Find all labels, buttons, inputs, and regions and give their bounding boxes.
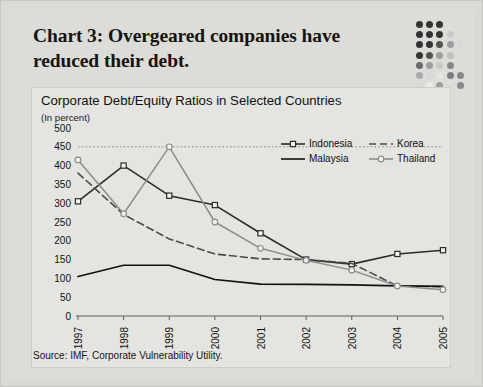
dot-glyph <box>436 41 443 48</box>
dot-glyph <box>436 31 443 38</box>
data-point-marker <box>212 219 218 225</box>
legend-key-icon <box>368 139 394 149</box>
figure-card: Chart 3: Overgeared companies have reduc… <box>9 9 474 379</box>
data-point-marker <box>258 231 263 236</box>
dot-glyph <box>426 41 433 48</box>
dot-glyph <box>436 72 443 79</box>
dot-glyph <box>416 62 423 69</box>
x-axis-tick-label: 2003 <box>347 327 358 350</box>
legend-item-indonesia[interactable]: Indonesia <box>280 138 358 149</box>
dot-glyph <box>426 72 433 79</box>
y-axis: 050100150200250300350400450500 <box>54 123 71 322</box>
x-axis-tick-label: 2002 <box>301 327 312 350</box>
data-point-marker <box>75 199 80 204</box>
dot-glyph <box>447 62 454 69</box>
chart-panel: Corporate Debt/Equity Ratios in Selected… <box>31 87 451 368</box>
x-axis-tick-label: 1997 <box>73 327 84 350</box>
legend-item-label: Korea <box>397 138 424 149</box>
legend-item-malaysia[interactable]: Malaysia <box>280 153 358 164</box>
legend-item-korea[interactable]: Korea <box>368 138 424 149</box>
data-point-marker <box>440 287 446 293</box>
plot-area: 050100150200250300350400450500 199719981… <box>32 88 452 369</box>
legend-item-label: Malaysia <box>309 153 348 164</box>
data-point-marker <box>258 246 264 252</box>
slide-page: Chart 3: Overgeared companies have reduc… <box>0 0 483 387</box>
data-point-marker <box>75 157 81 163</box>
series-line <box>78 173 443 287</box>
series-line <box>78 147 443 290</box>
dot-glyph <box>447 52 454 59</box>
dot-glyph <box>426 31 433 38</box>
legend-row: MalaysiaThailand <box>280 151 440 166</box>
y-axis-tick-label: 400 <box>54 160 71 171</box>
y-axis-tick-label: 350 <box>54 179 71 190</box>
y-axis-tick-label: 100 <box>54 273 71 284</box>
data-point-marker <box>166 144 172 150</box>
data-point-marker <box>212 202 217 207</box>
y-axis-tick-label: 450 <box>54 141 71 152</box>
line-chart-svg: 050100150200250300350400450500 199719981… <box>32 88 452 369</box>
x-axis-tick-label: 2005 <box>438 327 449 350</box>
data-point-marker <box>303 258 309 264</box>
y-axis-tick-label: 50 <box>60 292 72 303</box>
legend-item-thailand[interactable]: Thailand <box>368 153 435 164</box>
dot-glyph <box>416 52 423 59</box>
y-axis-tick-label: 150 <box>54 254 71 265</box>
data-point-marker <box>349 267 355 273</box>
data-point-marker <box>395 283 401 289</box>
legend-key-icon <box>368 154 394 164</box>
dot-glyph <box>416 21 423 28</box>
dot-glyph <box>457 41 464 48</box>
x-axis-tick-label: 1998 <box>119 327 130 350</box>
dot-glyph <box>416 31 423 38</box>
legend-item-label: Thailand <box>397 153 435 164</box>
data-point-marker <box>167 193 172 198</box>
legend-row: IndonesiaKorea <box>280 136 440 151</box>
dot-glyph <box>426 62 433 69</box>
dot-glyph <box>447 31 454 38</box>
data-point-marker <box>121 163 126 168</box>
dot-glyph <box>436 62 443 69</box>
legend-item-label: Indonesia <box>309 138 352 149</box>
x-axis-tick-label: 2000 <box>210 327 221 350</box>
x-axis-tick-label: 2001 <box>256 327 267 350</box>
legend-key-icon <box>280 154 306 164</box>
source-note: Source: IMF, Corporate Vulnerability Uti… <box>33 350 223 361</box>
page-title: Chart 3: Overgeared companies have reduc… <box>33 23 393 73</box>
dot-glyph <box>457 82 464 89</box>
dot-glyph <box>436 52 443 59</box>
y-axis-tick-label: 500 <box>54 123 71 134</box>
y-axis-tick-label: 200 <box>54 235 71 246</box>
data-point-marker <box>121 211 127 217</box>
series-group <box>75 144 446 292</box>
x-axis-tick-label: 1999 <box>164 327 175 350</box>
data-point-marker <box>440 248 445 253</box>
data-point-marker <box>395 251 400 256</box>
dot-glyph <box>447 41 454 48</box>
x-axis: 199719981999200020012002200320042005 <box>73 316 449 349</box>
dot-glyph <box>426 21 433 28</box>
legend-key-icon <box>280 139 306 149</box>
dot-glyph <box>457 72 464 79</box>
x-axis-tick-label: 2004 <box>392 327 403 350</box>
dot-glyph <box>447 72 454 79</box>
dot-glyph <box>436 21 443 28</box>
y-axis-tick-label: 0 <box>65 311 71 322</box>
chart-legend: IndonesiaKoreaMalaysiaThailand <box>280 136 440 166</box>
dot-glyph <box>416 72 423 79</box>
dot-glyph <box>426 52 433 59</box>
dot-glyph <box>416 41 423 48</box>
decorative-dot-grid-icon <box>416 21 482 97</box>
y-axis-tick-label: 250 <box>54 217 71 228</box>
y-axis-tick-label: 300 <box>54 198 71 209</box>
